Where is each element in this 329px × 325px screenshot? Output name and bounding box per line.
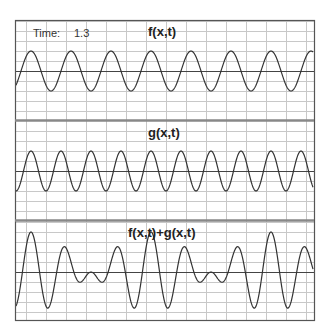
wave-chart: [0, 0, 329, 325]
time-value: 1.3: [74, 27, 89, 39]
panel-title-g: g(x,t): [148, 125, 180, 140]
grid-lines: [15, 20, 314, 321]
panel-title-sum: f(x,t)+g(x,t): [128, 225, 196, 240]
wave-curves: [16, 51, 313, 308]
time-label: Time:: [33, 27, 60, 39]
panel-title-f: f(x,t): [148, 24, 176, 39]
panel-borders: [15, 21, 315, 321]
